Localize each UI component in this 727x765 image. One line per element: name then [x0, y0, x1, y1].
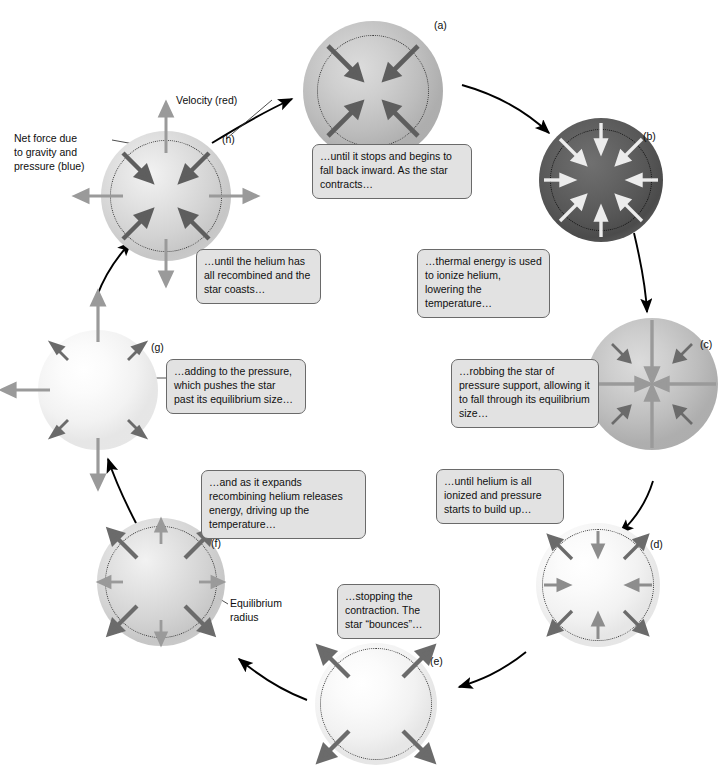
stage-tag-h: (h)	[222, 133, 235, 145]
velocity-legend-label: Velocity (red)	[176, 93, 237, 107]
star-glow-c	[586, 318, 718, 450]
caption-stage-f: …and as it expands recombining helium re…	[201, 470, 366, 539]
star-stage-a	[303, 21, 443, 161]
caption-stage-e: …stopping the contraction. The star “bou…	[337, 584, 440, 639]
stage-tag-b: (b)	[643, 130, 656, 142]
connector-c-to-d	[620, 481, 653, 533]
caption-stage-c: …robbing the star of pressure support, a…	[451, 359, 599, 428]
star-glow-g	[38, 330, 158, 450]
stage-tag-d: (d)	[650, 538, 663, 550]
caption-stage-b: …thermal energy is used to ionize helium…	[417, 249, 550, 318]
connector-f-to-g	[108, 459, 137, 525]
equilibrium-radius-label: Equilibrium radius	[230, 596, 282, 624]
star-stage-g	[38, 330, 158, 450]
star-stage-d	[536, 523, 660, 647]
caption-stage-a: …until it stops and begins to fall back …	[312, 144, 472, 199]
connector-g-to-h	[97, 242, 131, 296]
caption-stage-h: …until the helium has all recombined and…	[196, 249, 321, 304]
caption-stage-g: …adding to the pressure, which pushes th…	[166, 359, 306, 414]
pulsating-star-cycle-diagram: (a) …until it stops and begins to fall b…	[0, 0, 727, 765]
connector-b-to-c	[634, 233, 647, 312]
caption-stage-d: …until helium is all ionized and pressur…	[436, 469, 564, 524]
stage-tag-g: (g)	[151, 341, 164, 353]
star-stage-c	[586, 318, 718, 450]
star-glow-a	[303, 21, 443, 161]
netforce-legend-label: Net force due to gravity and pressure (b…	[14, 131, 124, 173]
star-glow-e	[315, 643, 437, 765]
stage-tag-c: (c)	[700, 338, 712, 350]
stage-tag-e: (e)	[430, 655, 443, 667]
connector-e-to-f	[239, 659, 307, 700]
connector-d-to-e	[459, 652, 526, 687]
star-glow-d	[536, 523, 660, 647]
star-stage-e	[315, 643, 437, 765]
connector-a-to-b	[462, 85, 549, 133]
stage-tag-a: (a)	[434, 19, 447, 31]
